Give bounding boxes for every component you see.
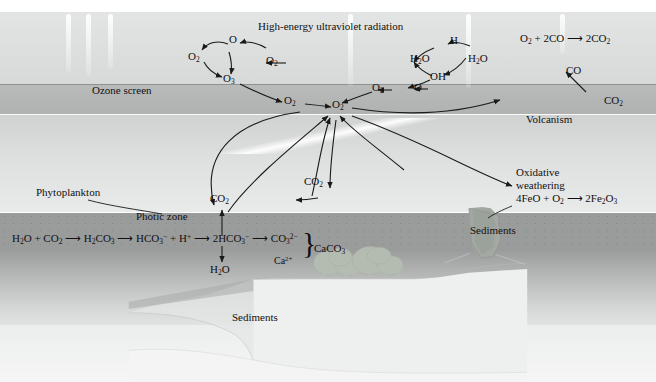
- arrow-hub-to-volcano-reaction: [352, 100, 500, 113]
- arrow-O2right-to-hub: [342, 92, 372, 103]
- arrow-H2Oright-to-OH: [444, 58, 466, 75]
- ocean-co2-up-label: CO2: [210, 192, 229, 207]
- sediments-land-label: Sediments: [470, 224, 516, 237]
- species-OH: OH: [430, 70, 446, 83]
- calcium-carbonate-label: CaCO3: [314, 242, 345, 257]
- uv-title: High-energy ultraviolet radiation: [258, 20, 403, 33]
- photic-zone-label: Photic zone: [136, 210, 188, 223]
- arrow-O-to-O3: [229, 52, 232, 74]
- species-O2-left: O2: [188, 50, 200, 65]
- arrow-O-to-O2left: [202, 42, 228, 50]
- sediments-ocean-label: Sediments: [232, 311, 278, 324]
- arrow-O3-to-O2lower: [240, 84, 282, 102]
- volcano-reaction: O2 + 2CO ⟶ 2CO2: [520, 32, 610, 47]
- ocean-h2o-byproduct-label: H2O: [210, 263, 230, 278]
- ozone-screen-label: Ozone screen: [92, 84, 152, 97]
- species-O2-lower: O2: [284, 94, 296, 109]
- arrow-hub-to-oxidative-weathering: [352, 116, 512, 186]
- leader-sediments-land: [488, 206, 512, 218]
- species-O-top: O: [229, 33, 237, 46]
- species-O-right: O: [414, 81, 422, 94]
- volcano-CO2-label: CO2: [604, 94, 623, 109]
- arrow-hub-to-forest: [330, 120, 336, 188]
- volcanism-label: Volcanism: [526, 113, 572, 126]
- carbonate-equation-chain: H2O + CO2 ⟶ H2CO3 ⟶ HCO3− + H+ ⟶ 2HCO3− …: [12, 232, 298, 247]
- volcano-CO-label: CO: [566, 64, 581, 77]
- species-H: H: [450, 34, 458, 47]
- arrow-O2lower-to-hub: [305, 104, 331, 107]
- species-H2O-left: H2O: [410, 52, 430, 67]
- species-O3: O3: [223, 72, 235, 87]
- arrow-O2mid-to-O: [240, 42, 266, 48]
- phytoplankton-label: Phytoplankton: [36, 186, 100, 199]
- arrow-forest-right-to-hub: [340, 116, 404, 170]
- oxidative-weathering-equation: 4FeO + O2 ⟶ 2Fe2O3: [516, 192, 617, 207]
- oxidative-weathering-label: Oxidative weathering: [516, 166, 565, 192]
- species-O2-mid: O2: [266, 54, 278, 69]
- forest-co2-label: CO2: [304, 175, 323, 190]
- species-H2O-right: H2O: [468, 52, 488, 67]
- species-O2-right: O2: [372, 81, 384, 96]
- species-O2-hub: O2: [332, 98, 344, 113]
- calcium-ion-label: Ca2+: [274, 255, 292, 267]
- arrow-O2left-to-O3: [204, 62, 222, 77]
- arrow-forest-to-co2: [296, 198, 318, 200]
- figure-canvas: High-energy ultraviolet radiation Ozone …: [0, 0, 656, 382]
